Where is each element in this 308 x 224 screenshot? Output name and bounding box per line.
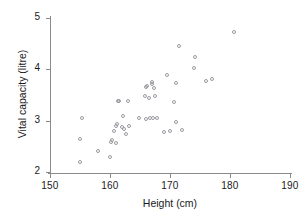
data-point bbox=[145, 84, 149, 88]
data-point bbox=[126, 99, 130, 103]
data-point bbox=[121, 114, 125, 118]
x-tick bbox=[230, 174, 231, 178]
data-point bbox=[114, 141, 118, 145]
data-point bbox=[180, 128, 184, 132]
data-point bbox=[155, 116, 159, 120]
data-point bbox=[165, 73, 169, 77]
x-ticklabel: 160 bbox=[90, 180, 130, 191]
x-tick bbox=[110, 174, 111, 178]
data-point bbox=[172, 100, 176, 104]
data-point bbox=[232, 30, 236, 34]
data-point bbox=[150, 80, 154, 84]
data-point bbox=[127, 124, 131, 128]
data-point bbox=[174, 120, 178, 124]
x-tick bbox=[50, 174, 51, 178]
y-axis-title: Vital capacity (litre) bbox=[16, 14, 28, 174]
data-point bbox=[124, 132, 128, 136]
x-ticklabel: 180 bbox=[210, 180, 250, 191]
data-point bbox=[210, 77, 214, 81]
x-ticklabel: 190 bbox=[270, 180, 308, 191]
data-point bbox=[78, 160, 82, 164]
data-point bbox=[168, 129, 172, 133]
data-point bbox=[204, 79, 208, 83]
x-tick bbox=[290, 174, 291, 178]
data-point bbox=[152, 86, 156, 90]
data-point bbox=[80, 116, 84, 120]
x-axis-title: Height (cm) bbox=[50, 197, 290, 209]
data-point bbox=[115, 122, 119, 126]
data-point bbox=[108, 155, 112, 159]
data-point bbox=[147, 96, 151, 100]
plot-area bbox=[50, 18, 290, 172]
data-point bbox=[112, 129, 116, 133]
data-point bbox=[117, 99, 121, 103]
y-tick bbox=[46, 172, 50, 173]
data-point bbox=[78, 137, 82, 141]
data-point bbox=[162, 130, 166, 134]
data-point bbox=[192, 66, 196, 70]
x-ticklabel: 170 bbox=[150, 180, 190, 191]
data-point bbox=[193, 55, 197, 59]
data-point bbox=[96, 149, 100, 153]
data-point bbox=[174, 81, 178, 85]
scatter-plot-figure: 150160170180190 5432 Height (cm) Vital c… bbox=[0, 0, 308, 224]
data-point bbox=[153, 94, 157, 98]
data-point bbox=[177, 44, 181, 48]
data-point bbox=[122, 127, 126, 131]
x-tick bbox=[170, 174, 171, 178]
data-point bbox=[137, 116, 141, 120]
x-ticklabel: 150 bbox=[30, 180, 70, 191]
